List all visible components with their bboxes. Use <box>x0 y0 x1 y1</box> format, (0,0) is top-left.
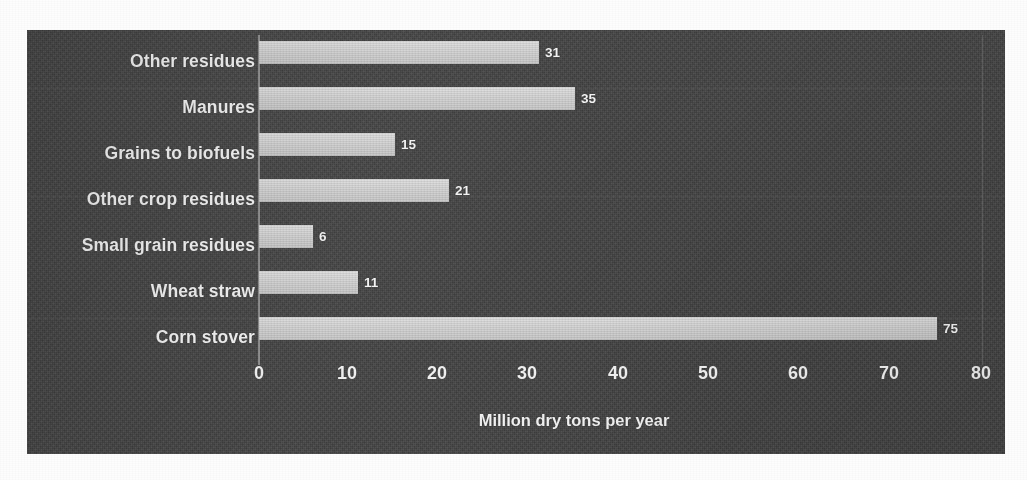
category-label-corn-stover: Corn stover <box>27 327 255 348</box>
x-tick-50: 50 <box>698 363 718 384</box>
x-tick-30: 30 <box>517 363 537 384</box>
bar-other-crop-residues[interactable] <box>259 179 449 202</box>
chart-figure: Other residues 31 Manures 35 Grains to b… <box>0 0 1027 480</box>
x-tick-0: 0 <box>254 363 264 384</box>
chart-plot-panel: Other residues 31 Manures 35 Grains to b… <box>27 30 1005 454</box>
x-axis-title: Million dry tons per year <box>27 411 1005 430</box>
bar-row[interactable]: Other residues 31 <box>27 34 1005 80</box>
bar-value-wheat-straw: 11 <box>364 275 378 290</box>
bar-small-grain-residues[interactable] <box>259 225 313 248</box>
bar-row[interactable]: Other crop residues 21 <box>27 172 1005 218</box>
bar-value-small-grain-residues: 6 <box>319 229 327 244</box>
bar-row[interactable]: Manures 35 <box>27 80 1005 126</box>
bar-value-other-residues: 31 <box>545 45 560 60</box>
bar-row[interactable]: Small grain residues 6 <box>27 218 1005 264</box>
bar-value-grains-to-biofuels: 15 <box>401 137 416 152</box>
bar-manures[interactable] <box>259 87 575 110</box>
bar-value-manures: 35 <box>581 91 596 106</box>
x-tick-20: 20 <box>427 363 447 384</box>
category-label-grains-to-biofuels: Grains to biofuels <box>27 143 255 164</box>
x-tick-80: 80 <box>971 363 991 384</box>
x-tick-60: 60 <box>788 363 808 384</box>
bar-other-residues[interactable] <box>259 41 539 64</box>
category-label-manures: Manures <box>27 97 255 118</box>
x-tick-10: 10 <box>337 363 357 384</box>
bar-row[interactable]: Corn stover 75 <box>27 310 1005 356</box>
category-label-other-residues: Other residues <box>27 51 255 72</box>
category-label-wheat-straw: Wheat straw <box>27 281 255 302</box>
category-label-small-grain-residues: Small grain residues <box>27 235 255 256</box>
bar-grains-to-biofuels[interactable] <box>259 133 395 156</box>
x-tick-70: 70 <box>879 363 899 384</box>
bar-value-corn-stover: 75 <box>943 321 958 336</box>
bar-row[interactable]: Grains to biofuels 15 <box>27 126 1005 172</box>
bar-value-other-crop-residues: 21 <box>455 183 470 198</box>
category-label-other-crop-residues: Other crop residues <box>27 189 255 210</box>
bar-row[interactable]: Wheat straw 11 <box>27 264 1005 310</box>
bar-corn-stover[interactable] <box>259 317 937 340</box>
plot-area: Other residues 31 Manures 35 Grains to b… <box>27 30 1005 454</box>
bar-wheat-straw[interactable] <box>259 271 358 294</box>
x-tick-40: 40 <box>608 363 628 384</box>
